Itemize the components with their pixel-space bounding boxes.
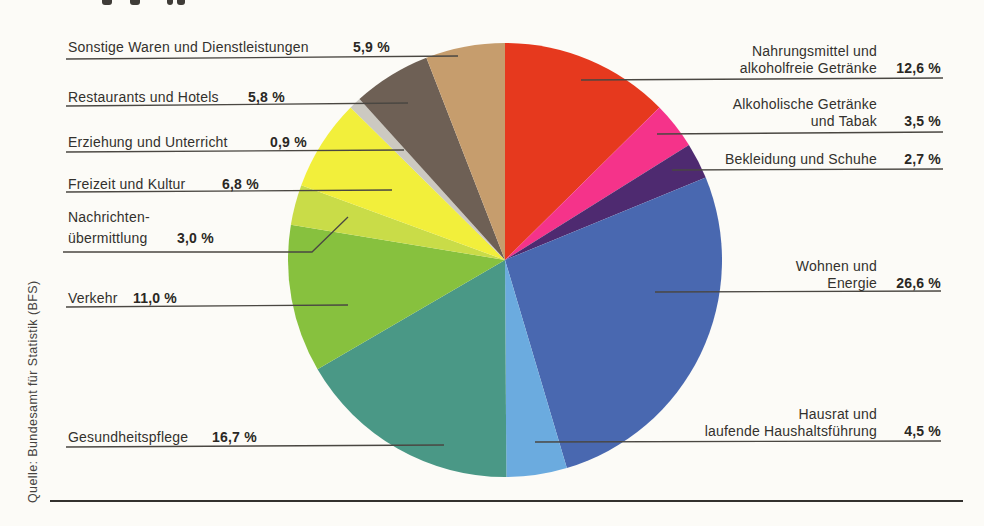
slice-value-wohnen: 26,6 % [896,276,941,291]
callout-line-bekleidung [672,169,943,170]
slice-label-gesundheitspflege: Gesundheitspflege [68,430,188,445]
callout-line-nahrungsmittel [581,78,943,80]
chart-page: Sonstige Waren und Dienstleistungen 5,9 … [0,0,984,526]
slice-label-alkoholische-line1: Alkoholische Getränke [733,97,877,112]
slice-value-bekleidung: 2,7 % [904,152,941,167]
slice-label-erziehung: Erziehung und Unterricht [68,135,228,150]
slice-label-sonstige: Sonstige Waren und Dienstleistungen [68,40,309,55]
slice-value-sonstige: 5,9 % [353,40,390,55]
bottom-rule [50,500,963,502]
slice-value-erziehung: 0,9 % [270,135,307,150]
slice-value-nahrungsmittel: 12,6 % [896,61,941,76]
slice-label-wohnen-line1: Wohnen und [796,259,877,274]
slice-label-nachrichtenuebermittlung-line1: Nachrichten- [68,210,150,225]
slice-value-restaurants: 5,8 % [248,90,285,105]
slice-value-nachrichtenuebermittlung: 3,0 % [177,231,214,246]
source-note: Quelle: Bundesamt für Statistik (BFS) [26,280,40,503]
callout-line-sonstige [66,56,458,59]
slice-value-hausrat: 4,5 % [904,424,941,439]
slice-label-restaurants: Restaurants und Hotels [68,90,219,105]
slice-value-freizeit: 6,8 % [222,177,259,192]
slice-value-alkoholische: 3,5 % [904,114,941,129]
slice-value-verkehr: 11,0 % [133,291,177,306]
slice-label-nahrungsmittel-line2: alkoholfreie Getränke [740,61,877,76]
slice-label-alkoholische-line2: und Tabak [811,114,877,129]
slice-label-bekleidung: Bekleidung und Schuhe [725,152,877,167]
slice-label-hausrat-line2: laufende Haushaltsführung [705,424,877,439]
slice-value-gesundheitspflege: 16,7 % [212,430,257,445]
callout-line-gesundheitspflege [66,445,444,447]
slice-label-nahrungsmittel-line1: Nahrungsmittel und [752,44,877,59]
slice-label-verkehr: Verkehr [68,291,118,306]
slice-label-nachrichtenuebermittlung-line2: übermittlung [68,231,147,246]
callout-line-alkoholische [657,132,943,134]
slice-label-freizeit: Freizeit und Kultur [68,177,185,192]
slice-label-wohnen-line2: Energie [827,276,877,291]
slice-label-hausrat-line1: Hausrat und [799,407,877,422]
